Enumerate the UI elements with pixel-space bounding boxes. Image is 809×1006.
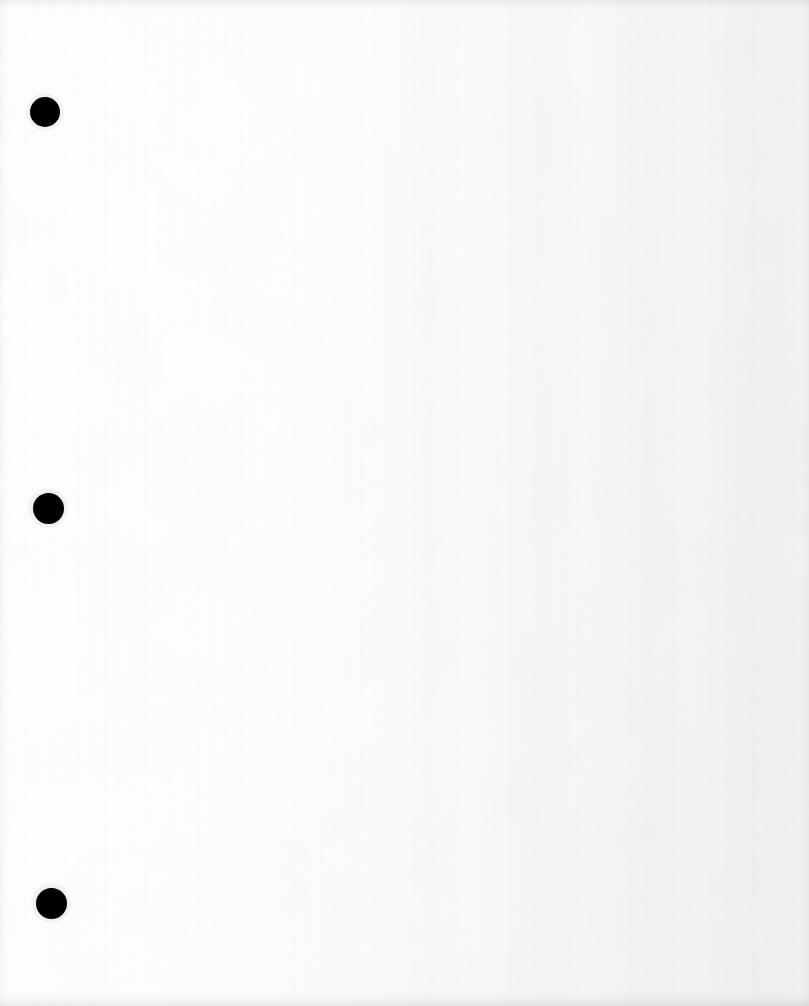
scanned-page [0,0,809,1006]
scan-edge-right [802,0,809,1006]
hole-punch-top [30,97,60,127]
scan-edge-left [0,0,6,1006]
scan-edge-top [0,0,809,10]
page-content-area [96,40,763,958]
scan-edge-bottom [0,992,809,1006]
hole-punch-bottom [36,888,67,919]
hole-punch-middle [33,493,64,524]
